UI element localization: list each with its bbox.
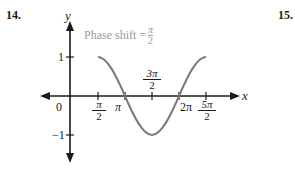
y-tick-label-1: 1	[58, 50, 64, 65]
y-axis-down-arrow-icon	[66, 153, 74, 163]
origin-label: 0	[56, 100, 62, 115]
x-axis-label: x	[242, 88, 248, 104]
phase-shift-fraction: π 2	[148, 25, 153, 46]
y-tick-label-neg1: −1	[52, 128, 65, 143]
phase-shift-annotation: Phase shift = π 2	[84, 25, 153, 46]
x-tick-label-3pi-over-2: 3π 2	[143, 68, 161, 91]
x-axis-right-arrow-icon	[230, 92, 240, 100]
x-tick-label-2pi: 2π	[180, 100, 192, 115]
x-tick-label-pi-over-2: π 2	[92, 99, 106, 122]
x-tick-label-pi: π	[115, 100, 121, 115]
y-axis	[66, 21, 74, 163]
y-axis-label: y	[65, 8, 71, 24]
x-tick-label-5pi-over-2: 5π 2	[198, 99, 216, 122]
x-axis-left-arrow-icon	[40, 92, 50, 100]
